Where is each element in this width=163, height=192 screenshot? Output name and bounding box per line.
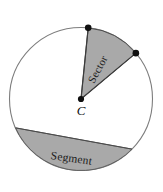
circle-diagram-canvas: C Sector Segment [0, 0, 163, 192]
geometry-figure: C Sector Segment [0, 0, 163, 192]
center-label: C [77, 103, 86, 118]
center-point [78, 96, 84, 102]
sector-arc-end-point [133, 50, 140, 57]
sector-arc-start-point [85, 25, 92, 32]
